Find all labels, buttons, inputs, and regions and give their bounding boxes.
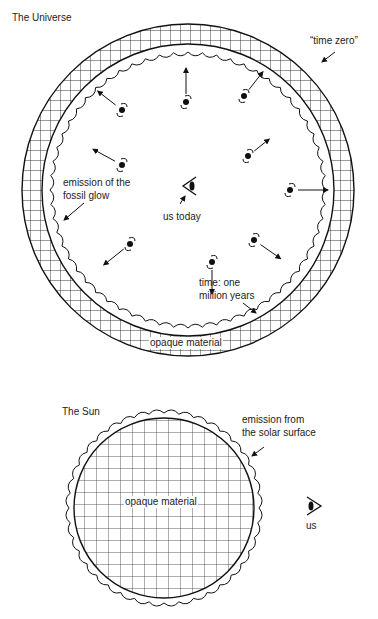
eye-icon-us bbox=[307, 497, 321, 515]
us-today-label: us today bbox=[163, 211, 201, 223]
sun-title: The Sun bbox=[62, 406, 100, 418]
fossil-glow-label-1: emission of the bbox=[63, 177, 130, 189]
time-million-label-2: million years bbox=[199, 290, 255, 302]
universe-opaque-label: opaque material bbox=[149, 337, 223, 349]
solar-emission-label-1: emission from bbox=[242, 414, 304, 426]
universe-title: The Universe bbox=[12, 12, 71, 24]
time-million-label-1: time: one bbox=[199, 277, 240, 289]
diagram-canvas bbox=[0, 0, 378, 619]
sun-opaque-label: opaque material bbox=[124, 496, 198, 508]
time-zero-label: “time zero” bbox=[310, 35, 358, 47]
solar-emission-arrow bbox=[252, 447, 264, 456]
sun-body bbox=[74, 418, 254, 598]
us-label: us bbox=[306, 520, 317, 532]
fossil-glow-label-2: fossil glow bbox=[63, 190, 109, 202]
solar-emission-label-2: the solar surface bbox=[242, 427, 316, 439]
